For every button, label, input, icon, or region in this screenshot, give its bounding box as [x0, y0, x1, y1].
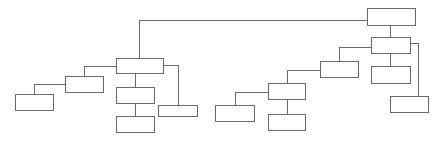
node-left-parent [117, 59, 164, 74]
edge-right-parent-to-right-child-3 [410, 43, 418, 96]
edge-right-parent-to-right-child-1 [339, 47, 371, 61]
node-right-great-grandchild-2 [269, 115, 306, 131]
edge-left-child-1-to-left-grandchild-1 [34, 84, 65, 94]
edge-root-to-left-parent [139, 20, 367, 58]
org-tree-diagram [0, 0, 440, 142]
tree-nodes [16, 9, 429, 133]
edge-left-parent-to-left-child-3 [163, 65, 178, 105]
node-right-child-3 [391, 97, 429, 113]
node-left-child-1 [66, 77, 104, 93]
node-left-grandchild-1 [16, 95, 54, 111]
node-left-child-3 [159, 106, 198, 117]
node-right-great-grandchild-1 [216, 106, 255, 122]
node-right-child-1 [321, 62, 359, 78]
node-left-child-2 [117, 88, 155, 104]
edge-left-parent-to-left-child-1 [84, 66, 116, 76]
connector-lines [34, 20, 418, 116]
node-right-parent [372, 38, 411, 54]
edge-right-child-1-to-right-grandchild-1 [287, 70, 320, 83]
node-left-grandchild-2 [117, 117, 155, 133]
edge-right-grandchild-1-to-right-great-grandchild-1 [235, 92, 268, 105]
node-right-grandchild-1 [269, 84, 306, 100]
node-right-child-2 [372, 67, 411, 84]
node-root [368, 9, 416, 26]
